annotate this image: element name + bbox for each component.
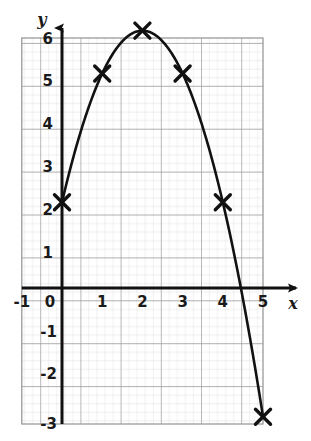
y-tick-label-neg1: -1 xyxy=(40,323,57,341)
y-tick-label-6: 6 xyxy=(43,30,53,48)
origin-label: 0 xyxy=(45,293,55,311)
x-axis-label: x xyxy=(287,294,298,313)
y-tick-label-2: 2 xyxy=(43,201,53,219)
x-tick-label-4: 4 xyxy=(218,293,228,311)
y-tick-label-neg3: -3 xyxy=(40,415,57,433)
y-tick-label-5: 5 xyxy=(43,72,53,90)
x-tick-label-5: 5 xyxy=(258,293,268,311)
y-tick-label-1: 1 xyxy=(43,244,53,262)
y-tick-label-4: 4 xyxy=(43,115,53,133)
y-tick-label-3: 3 xyxy=(43,158,53,176)
coordinate-plane-svg: -1 0 1 2 3 4 5 6 5 4 3 2 1 -1 -2 -3 y x xyxy=(0,0,311,441)
graph-figure: -1 0 1 2 3 4 5 6 5 4 3 2 1 -1 -2 -3 y x xyxy=(0,0,311,441)
x-tick-label-2: 2 xyxy=(137,293,147,311)
x-tick-label-3: 3 xyxy=(177,293,187,311)
plot-grid xyxy=(22,38,263,424)
x-tick-label-neg1: -1 xyxy=(13,293,30,311)
y-axis-label: y xyxy=(36,10,48,29)
y-tick-label-neg2: -2 xyxy=(40,365,57,383)
x-tick-label-1: 1 xyxy=(97,293,107,311)
